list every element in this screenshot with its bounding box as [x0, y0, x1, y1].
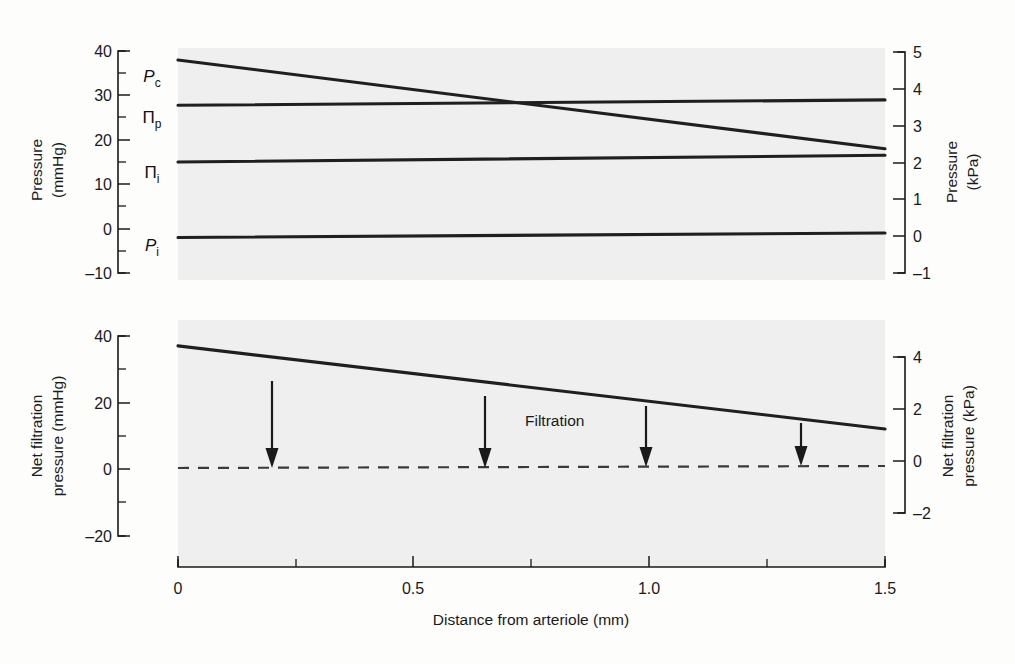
- curve-label-pc: Pc: [143, 67, 160, 90]
- bottom-panel-right-axis: 4 2 0 –2: [893, 349, 931, 522]
- x-ticklabel-1.5: 1.5: [874, 580, 896, 597]
- top-right-ticklabel-5: 5: [913, 44, 922, 61]
- x-ticklabel-1.0: 1.0: [638, 580, 660, 597]
- bottom-left-ticklabel-20: 20: [94, 395, 112, 412]
- bottom-right-ticklabel-2: 2: [913, 401, 922, 418]
- top-right-axis-title-line1: Pressure: [943, 141, 960, 203]
- starling-forces-figure: 40 30 20 10 0 –10 Pressure (mmHg) 5 4 3 …: [0, 0, 1015, 664]
- curve-label-pi-p: Πp: [143, 108, 162, 131]
- bottom-right-axis-line: [898, 357, 905, 513]
- x-ticklabel-0: 0: [174, 580, 183, 597]
- curve-label-p-i: Pi: [145, 236, 159, 259]
- top-right-ticklabel-3: 3: [913, 118, 922, 135]
- top-left-axis-title-line1: Pressure: [28, 139, 45, 201]
- bottom-right-axis-title-line2: pressure (kPa): [960, 385, 977, 487]
- bottom-left-ticklabel-0: 0: [103, 461, 112, 478]
- x-ticklabel-0.5: 0.5: [402, 580, 424, 597]
- bottom-right-ticklabel-0: 0: [913, 453, 922, 470]
- bottom-right-ticklabel-4: 4: [913, 349, 922, 366]
- top-left-axis-title-line2: (mmHg): [49, 142, 66, 198]
- bottom-right-ticklabel-neg2: –2: [913, 505, 931, 522]
- bottom-left-axis-title-line2: pressure (mmHg): [49, 376, 66, 497]
- top-right-axis-title-line2: (kPa): [964, 153, 981, 190]
- top-panel-plot-area: [178, 48, 885, 280]
- top-left-ticklabel-20: 20: [94, 132, 112, 149]
- bottom-left-ticklabel-40: 40: [94, 328, 112, 345]
- top-right-ticklabel-4: 4: [913, 81, 922, 98]
- top-left-ticklabel-30: 30: [94, 87, 112, 104]
- bottom-panel-left-axis: 40 20 0 –20: [85, 328, 130, 545]
- top-panel-right-axis: 5 4 3 2 1 0 –1: [893, 44, 931, 282]
- figure-container: 40 30 20 10 0 –10 Pressure (mmHg) 5 4 3 …: [0, 0, 1015, 664]
- top-panel: 40 30 20 10 0 –10 Pressure (mmHg) 5 4 3 …: [28, 43, 981, 282]
- x-axis: 0 0.5 1.0 1.5 Distance from arteriole (m…: [174, 556, 897, 628]
- bottom-left-ticklabel-neg20: –20: [85, 528, 112, 545]
- top-left-ticklabel-neg10: –10: [85, 265, 112, 282]
- top-left-ticklabel-0: 0: [103, 221, 112, 238]
- top-panel-left-axis: 40 30 20 10 0 –10: [85, 43, 130, 282]
- curve-label-pi-i: Πi: [145, 163, 160, 186]
- bottom-panel: 40 20 0 –20 Net filtration pressure (mmH…: [28, 320, 977, 567]
- filtration-label: Filtration: [525, 412, 584, 429]
- bottom-left-axis-title-line1: Net filtration: [28, 395, 45, 478]
- top-right-ticklabel-1: 1: [913, 191, 922, 208]
- x-axis-title: Distance from arteriole (mm): [433, 611, 629, 628]
- top-right-ticklabel-2: 2: [913, 155, 922, 172]
- top-left-ticklabel-10: 10: [94, 176, 112, 193]
- top-right-ticklabel-0: 0: [913, 228, 922, 245]
- top-left-ticklabel-40: 40: [94, 43, 112, 60]
- top-right-ticklabel-neg1: –1: [913, 265, 931, 282]
- bottom-right-axis-title-line1: Net filtration: [939, 395, 956, 478]
